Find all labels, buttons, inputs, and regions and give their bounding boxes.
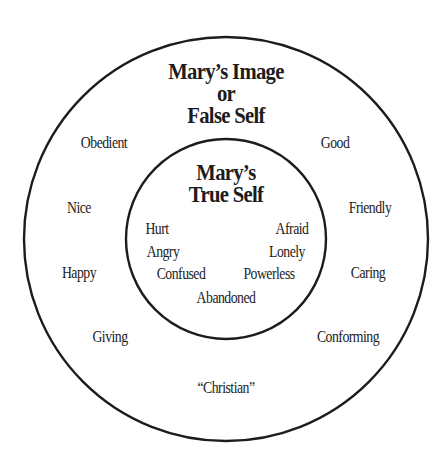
- inner-feeling: Angry: [147, 243, 180, 261]
- outer-trait: Caring: [351, 264, 385, 282]
- outer-title-line-2: or: [168, 82, 283, 104]
- outer-trait: Good: [321, 134, 350, 152]
- inner-title-line-2: True Self: [189, 183, 263, 205]
- inner-circle-title: Mary’s True Self: [189, 161, 263, 205]
- outer-trait: Conforming: [317, 328, 379, 346]
- outer-title-line-3: False Self: [168, 104, 283, 126]
- outer-trait: Giving: [92, 328, 127, 346]
- outer-trait: Nice: [67, 199, 91, 217]
- inner-feeling: Afraid: [276, 220, 309, 238]
- outer-trait: Friendly: [349, 199, 392, 217]
- outer-title-line-1: Mary’s Image: [168, 60, 283, 82]
- inner-feeling: Abandoned: [197, 289, 256, 307]
- diagram: Mary’s Image or False Self Mary’s True S…: [0, 0, 447, 465]
- inner-feeling: Powerless: [243, 265, 294, 283]
- outer-circle-title: Mary’s Image or False Self: [168, 60, 283, 126]
- inner-feeling: Lonely: [269, 243, 305, 261]
- inner-feeling: Confused: [157, 265, 206, 283]
- inner-title-line-1: Mary’s: [189, 161, 263, 183]
- outer-trait: “Christian”: [197, 379, 254, 397]
- outer-trait: Happy: [62, 264, 96, 282]
- inner-feeling: Hurt: [145, 220, 168, 238]
- outer-trait: Obedient: [81, 134, 127, 152]
